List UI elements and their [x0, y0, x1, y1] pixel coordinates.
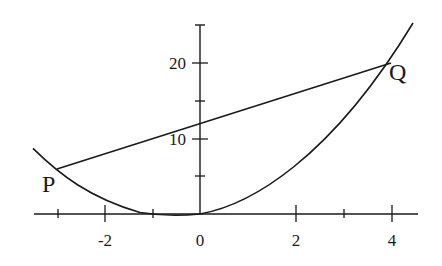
- point-label-q: Q: [389, 59, 406, 85]
- parabola-curve: [33, 23, 413, 215]
- y-tick-label: 20: [169, 54, 186, 73]
- x-tick-label: 4: [388, 231, 397, 250]
- point-label-p: P: [42, 171, 55, 197]
- x-tick-label: 0: [196, 231, 205, 250]
- x-tick-label: 2: [292, 231, 301, 250]
- chart-canvas: -2 0 2 4 10 20 P Q: [0, 0, 442, 266]
- chord-pq: [57, 63, 391, 169]
- x-tick-label: -2: [98, 231, 112, 250]
